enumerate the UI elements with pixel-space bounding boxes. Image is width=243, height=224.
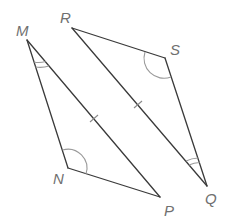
vertex-label-r: R [60, 9, 71, 26]
segment-rq [72, 28, 207, 186]
triangle-rsq [72, 28, 207, 186]
vertex-label-p: P [164, 202, 174, 219]
congruent-triangles-diagram: M R S N P Q [0, 0, 243, 224]
angle-arc-m-inner [34, 62, 46, 63]
vertex-label-n: N [53, 170, 64, 187]
segment-np [68, 168, 160, 197]
angle-arc-q-inner [189, 163, 200, 166]
vertex-label-m: M [16, 22, 29, 39]
vertex-label-s: S [170, 41, 180, 58]
angle-arc-q-outer [186, 158, 198, 161]
segment-sq [165, 58, 207, 186]
angle-arc-m-outer [36, 66, 50, 67]
vertex-label-q: Q [205, 190, 217, 207]
segment-rs [72, 28, 165, 58]
segment-mn [27, 40, 68, 168]
